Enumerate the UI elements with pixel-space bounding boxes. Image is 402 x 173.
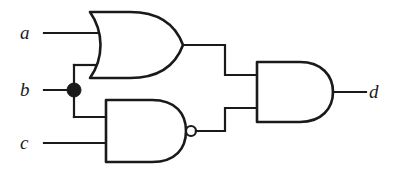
- circuit-schematic-svg: [0, 0, 402, 173]
- input-label-a: a: [20, 23, 30, 42]
- or-gate-body: [90, 12, 183, 78]
- and-gate-body: [257, 62, 333, 122]
- junction-dot-b: [67, 83, 81, 97]
- nand-inversion-bubble-icon: [186, 126, 196, 136]
- logic-circuit-diagram: a b c d: [0, 0, 402, 173]
- input-label-c: c: [20, 133, 28, 152]
- input-label-b: b: [20, 80, 30, 99]
- wire-or-gate-output: [183, 45, 258, 75]
- nand-gate-body: [106, 100, 186, 162]
- output-label-d: d: [369, 82, 379, 101]
- wire-nand-gate-output: [196, 108, 258, 131]
